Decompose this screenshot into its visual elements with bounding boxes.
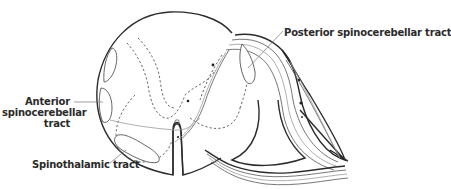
- commissural-fiber: [110, 118, 200, 130]
- label-anterior-line3: tract: [2, 118, 70, 129]
- posterior-spinocerebellar-tract-region: [240, 44, 255, 84]
- label-posterior-spinocerebellar-tract: Posterior spinocerebellar tract: [284, 27, 451, 38]
- label-anterior-line2: spinocerebellar: [2, 107, 70, 118]
- label-anterior-line1: Anterior: [2, 96, 70, 107]
- anterior-median-fissure: [173, 124, 183, 175]
- dorsal-root-fiber-light: [290, 62, 340, 158]
- fiber-bundle: [175, 34, 347, 170]
- ventral-root: [232, 100, 305, 165]
- label-spinothalamic-tract: Spinothalamic tract: [32, 159, 139, 170]
- label-anterior-spinocerebellar-tract: Anterior spinocerebellar tract: [2, 96, 70, 129]
- spinal-cord-outline: [97, 12, 232, 175]
- anterior-spinocerebellar-tract-region: [99, 48, 117, 122]
